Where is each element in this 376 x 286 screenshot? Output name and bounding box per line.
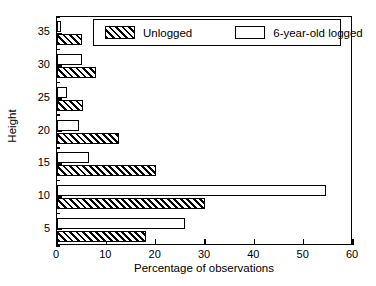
x-axis-tick-label: 30: [189, 249, 219, 260]
y-axis-tick-label: 20: [28, 125, 50, 136]
x-axis-tick-label: 40: [238, 249, 268, 260]
legend-swatch-hatched-icon: [105, 26, 135, 39]
y-axis-minor-tick: [56, 82, 60, 84]
y-axis-minor-tick: [56, 49, 60, 51]
x-axis-label: Percentage of observations: [56, 262, 352, 274]
y-axis-tick-label: 10: [28, 190, 50, 201]
bar-unlogged: [57, 198, 205, 209]
y-axis-minor-tick: [56, 213, 60, 215]
x-axis-tick-label: 10: [90, 249, 120, 260]
y-axis-tick-label: 25: [28, 92, 50, 103]
legend-label-logged: 6-year-old logged: [273, 27, 363, 39]
legend-swatch-open-icon: [235, 26, 265, 39]
bar-unlogged: [57, 67, 96, 78]
y-axis-minor-tick: [56, 114, 60, 116]
chart-legend: Unlogged 6-year-old logged: [93, 19, 341, 46]
bar-unlogged: [57, 231, 146, 242]
bar-logged: [57, 120, 79, 131]
y-axis-minor-tick: [56, 147, 60, 149]
x-axis-tick-label: 0: [41, 249, 71, 260]
bar-logged: [57, 152, 89, 163]
bar-unlogged: [57, 165, 156, 176]
y-axis-label: Height: [6, 96, 18, 156]
legend-label-unlogged: Unlogged: [143, 27, 192, 39]
x-axis-tick: [254, 239, 256, 245]
y-axis-minor-tick: [56, 180, 60, 182]
x-axis-tick: [352, 239, 354, 245]
bar-unlogged: [57, 34, 82, 45]
x-axis-tick: [204, 239, 206, 245]
bar-unlogged: [57, 100, 83, 111]
x-axis-tick: [303, 239, 305, 245]
y-axis-tick-label: 15: [28, 157, 50, 168]
x-axis-tick-label: 60: [337, 249, 367, 260]
bar-logged: [57, 185, 326, 196]
bar-unlogged: [57, 133, 119, 144]
bar-logged: [57, 21, 61, 32]
x-axis-tick: [155, 239, 157, 245]
y-axis-tick-label: 5: [28, 223, 50, 234]
legend-item-unlogged: Unlogged: [105, 26, 192, 39]
y-axis-tick-label: 35: [28, 26, 50, 37]
bar-logged: [57, 87, 67, 98]
y-axis-tick-label: 30: [28, 59, 50, 70]
bar-logged: [57, 218, 185, 229]
chart-figure: 0102030405060 5101520253035 Percentage o…: [0, 0, 376, 286]
legend-item-logged: 6-year-old logged: [235, 26, 363, 39]
y-axis-minor-tick: [56, 16, 60, 18]
y-axis-minor-tick: [56, 245, 60, 247]
bar-logged: [57, 54, 82, 65]
plot-area: [56, 16, 352, 245]
x-axis-tick-label: 20: [140, 249, 170, 260]
x-axis-tick-label: 50: [288, 249, 318, 260]
